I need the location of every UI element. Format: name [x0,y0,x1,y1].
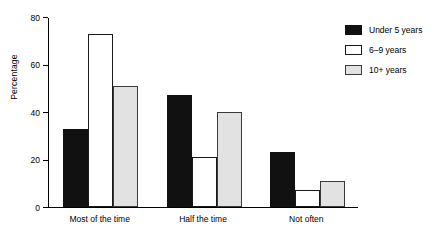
bar [270,152,295,207]
legend-swatch-icon [345,65,362,75]
x-axis-line [48,207,358,208]
bar [63,129,88,207]
y-tick-label: 20 [31,155,40,165]
y-tick-label: 0 [35,203,40,213]
y-tick-label: 60 [31,60,40,70]
plot-area: 020406080 [48,18,358,208]
x-axis-label: Most of the time [69,214,129,224]
y-axis-title: Percentage [9,32,19,122]
y-tick-label: 80 [31,13,40,23]
y-tick-label: 40 [31,108,40,118]
bar-chart: Percentage 020406080 Most of the timeHal… [0,0,437,244]
legend-item: 10+ years [345,64,422,75]
legend-swatch-icon [345,25,362,35]
bar [192,157,217,207]
y-tick: 40 [43,112,48,113]
legend-item: Under 5 years [345,24,422,35]
legend-item: 6–9 years [345,44,422,55]
bar [167,95,192,207]
y-tick: 20 [43,160,48,161]
x-axis-label: Not often [289,214,324,224]
bar [113,86,138,207]
bar [320,181,345,207]
legend-label: Under 5 years [369,25,422,35]
legend: Under 5 years6–9 years10+ years [345,24,422,84]
bars-layer [49,18,358,207]
y-tick: 60 [43,65,48,66]
y-tick: 0 [43,207,48,208]
bar [217,112,242,207]
legend-swatch-icon [345,45,362,55]
legend-label: 10+ years [369,65,407,75]
bar [295,190,320,207]
x-axis-label: Half the time [179,214,227,224]
y-tick: 80 [43,17,48,18]
bar [88,34,113,207]
legend-label: 6–9 years [369,45,406,55]
